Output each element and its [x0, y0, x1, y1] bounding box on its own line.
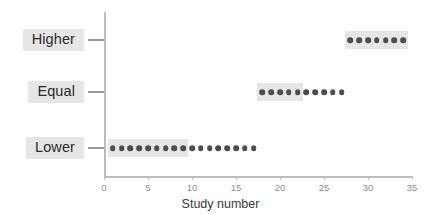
- data-point: [242, 145, 248, 151]
- category-label-higher: Higher: [23, 29, 84, 51]
- x-tick-label-0: 0: [101, 183, 106, 193]
- data-point: [330, 89, 336, 95]
- x-tick-30: [368, 176, 369, 180]
- x-tick-25: [324, 176, 325, 180]
- dot-plot-chart: Higher Equal Lower 05101520253035 Study …: [0, 0, 441, 215]
- data-point: [400, 37, 406, 43]
- data-point: [356, 37, 362, 43]
- x-tick-10: [192, 176, 193, 180]
- data-point: [172, 145, 178, 151]
- x-tick-5: [148, 176, 149, 180]
- data-point: [268, 89, 274, 95]
- data-point: [189, 145, 195, 151]
- data-point: [128, 145, 134, 151]
- y-tick-equal: [88, 91, 104, 93]
- data-point: [145, 145, 151, 151]
- x-tick-label-35: 35: [407, 183, 418, 193]
- x-tick-label-15: 15: [231, 183, 242, 193]
- data-point: [198, 145, 204, 151]
- x-tick-label-5: 5: [145, 183, 150, 193]
- x-tick-label-30: 30: [363, 183, 374, 193]
- data-point: [251, 145, 257, 151]
- data-point: [383, 37, 389, 43]
- data-point: [348, 37, 354, 43]
- x-tick-20: [280, 176, 281, 180]
- y-tick-higher: [88, 39, 104, 41]
- data-point: [321, 89, 327, 95]
- data-point: [295, 89, 301, 95]
- data-point: [110, 145, 116, 151]
- x-tick-15: [236, 176, 237, 180]
- data-point: [365, 37, 371, 43]
- data-point: [154, 145, 160, 151]
- data-point: [224, 145, 230, 151]
- data-point: [392, 37, 398, 43]
- x-tick-label-10: 10: [187, 183, 198, 193]
- data-point: [339, 89, 345, 95]
- data-point: [260, 89, 266, 95]
- x-tick-label-25: 25: [319, 183, 330, 193]
- data-point: [286, 89, 292, 95]
- data-point: [312, 89, 318, 95]
- x-tick-0: [104, 176, 105, 180]
- y-axis-line: [104, 12, 106, 176]
- data-point: [277, 89, 283, 95]
- data-point: [119, 145, 125, 151]
- data-point: [233, 145, 239, 151]
- x-axis-title: Study number: [0, 198, 441, 211]
- data-point: [136, 145, 142, 151]
- x-tick-label-20: 20: [275, 183, 286, 193]
- data-point: [207, 145, 213, 151]
- x-tick-35: [412, 176, 413, 180]
- category-label-lower: Lower: [26, 137, 84, 159]
- x-axis-line: [104, 176, 412, 178]
- data-point: [163, 145, 169, 151]
- data-point: [180, 145, 186, 151]
- data-point: [374, 37, 380, 43]
- data-point: [216, 145, 222, 151]
- y-tick-lower: [88, 147, 104, 149]
- category-label-equal: Equal: [28, 81, 84, 103]
- data-point: [304, 89, 310, 95]
